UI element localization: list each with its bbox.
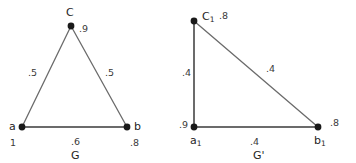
vertex-weight-b: .8 (130, 138, 139, 148)
graph-caption-g-prime: G' (253, 150, 265, 161)
vertex-weight-a1: .9 (179, 120, 188, 130)
vertex-weight-b1: .8 (330, 118, 339, 128)
vertex-b1-dot (315, 124, 322, 131)
graph-g-canvas (0, 0, 178, 163)
edge-weight-c-b: .5 (105, 68, 114, 78)
vertex-label-a1-base: a (190, 134, 197, 147)
vertex-label-a1-subscript: 1 (197, 139, 202, 148)
vertex-a-dot (19, 124, 26, 131)
vertex-label-c1-subscript: 1 (210, 15, 215, 24)
vertex-b-dot (124, 124, 131, 131)
graph-panel-g-prime: C1 .8 a1 .9 b1 .8 .4 .4 .4 G' (178, 0, 356, 163)
vertex-label-a1: a1 (190, 135, 202, 146)
vertex-label-b: b (134, 121, 141, 132)
edge-weight-a-c: .5 (28, 68, 37, 78)
edge-weight-a1-b1: .4 (250, 137, 259, 147)
edge-weight-c1-b1: .4 (266, 64, 275, 74)
vertex-c-dot (68, 23, 75, 30)
graph-g-prime-edges (194, 21, 318, 127)
graph-g-prime-canvas (178, 0, 356, 163)
graph-panel-g: C .9 a 1 b .8 .5 .5 .6 G (0, 0, 178, 163)
vertex-weight-c: .9 (79, 24, 88, 34)
edge-c-b-line (71, 26, 127, 127)
vertex-c1-dot (191, 18, 198, 25)
vertex-label-a: a (9, 121, 16, 132)
vertex-label-c1-base: C (202, 10, 210, 23)
edge-weight-a1-c1: .4 (182, 68, 191, 78)
vertex-label-b1-subscript: 1 (321, 139, 326, 148)
vertex-label-c1: C1 (202, 11, 214, 22)
vertex-label-b1: b1 (314, 135, 326, 146)
edge-c1-b1-line (194, 21, 318, 127)
vertex-label-c: C (66, 7, 74, 18)
vertex-weight-c1: .8 (219, 11, 228, 21)
graph-caption-g: G (71, 150, 80, 161)
vertex-a1-dot (191, 124, 198, 131)
figure-root: C .9 a 1 b .8 .5 .5 .6 G C1 (0, 0, 356, 163)
vertex-label-b1-base: b (314, 134, 321, 147)
vertex-weight-a: 1 (10, 138, 16, 148)
edge-weight-a-b: .6 (71, 137, 80, 147)
